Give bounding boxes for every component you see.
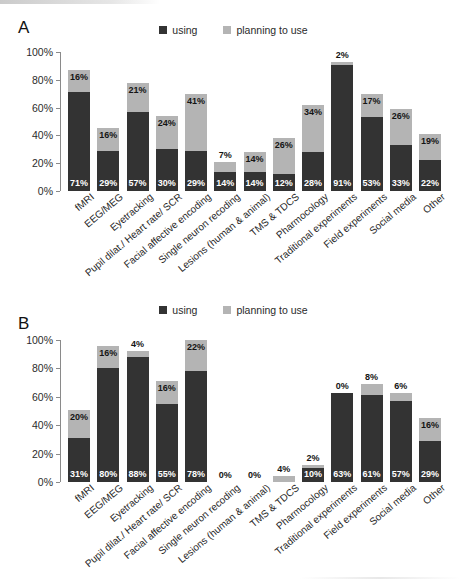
legend-label-planning: planning to use [236,304,307,316]
bar-segment-planning: 17% [361,94,383,118]
bar-stack[interactable]: 16%29% [97,52,119,191]
bar-value-label: 55% [158,470,176,479]
bar-value-label: 26% [275,141,293,150]
bar-value-label: 91% [333,179,351,188]
y-axis-tick: 40% [32,129,60,141]
bar-segment-planning: 20% [68,410,90,438]
bar-stack[interactable]: 17%53% [361,52,383,191]
bar-stack[interactable]: 22%78% [185,340,207,482]
panel-letter-b: B [18,314,30,334]
bar-segment-planning: 16% [68,70,90,92]
legend-item-planning: planning to use [223,24,307,36]
bar-segment-using: 55% [156,404,178,482]
bar-stack[interactable]: 26%12% [273,52,295,191]
bar-value-label: 17% [362,97,380,106]
plot-area-a: 100%80%60%40%20%0% 16%71%16%29%21%57%24%… [60,52,445,191]
bar-stack[interactable]: 34%28% [302,52,324,191]
bar-stack[interactable]: 4% [273,340,295,482]
bar-segment-planning: 7% [214,162,236,172]
bar-segment-using: 63% [331,393,353,482]
bar-segment-using: 33% [390,145,412,191]
bar-segment-planning: 16% [419,418,441,441]
bar-segment-planning: 26% [273,138,295,174]
y-axis-tick: 80% [32,362,60,374]
y-axis-line [60,340,61,482]
bar-value-label: 0% [336,382,349,391]
bar-stack[interactable]: 41%29% [185,52,207,191]
bar-value-label: 57% [128,179,146,188]
bar-value-label: 16% [421,421,439,430]
bar-stack[interactable]: 0% [214,340,236,482]
bar-stack[interactable]: 16%29% [419,340,441,482]
x-axis-label: fMRI [73,482,96,504]
bar-stack[interactable]: 21%57% [127,52,149,191]
bar-stack[interactable]: 7%14% [214,52,236,191]
legend-swatch-using-icon [159,26,167,34]
bar-value-label: 2% [336,51,349,60]
bar-stack[interactable]: 0% [244,340,266,482]
bar-stack[interactable]: 16%55% [156,340,178,482]
bar-segment-using: 31% [68,438,90,482]
bar-stack[interactable]: 16%71% [68,52,90,191]
bar-value-label: 22% [187,343,205,352]
x-axis-label: fMRI [73,191,96,213]
bar-segment-using: 57% [127,112,149,191]
bar-stack[interactable]: 6%57% [390,340,412,482]
bar-value-label: 33% [392,179,410,188]
bar-value-label: 10% [304,470,322,479]
y-axis-tick: 100% [26,46,60,58]
x-axis-labels-b: fMRIEEG/MEGEyetrackingPupil dilat./ Hear… [60,482,445,578]
x-axis-label: Other [421,191,447,216]
bar-segment-using: 28% [302,152,324,191]
bar-value-label: 14% [216,179,234,188]
bar-segment-planning: 24% [156,116,178,149]
bar-stack[interactable]: 14%14% [244,52,266,191]
bar-value-label: 31% [70,470,88,479]
bar-value-label: 71% [70,179,88,188]
plot-area-b: 100%80%60%40%20%0% 20%31%16%80%4%88%16%5… [60,340,445,482]
bar-stack[interactable]: 24%30% [156,52,178,191]
bar-value-label: 19% [421,137,439,146]
bar-stack[interactable]: 20%31% [68,340,90,482]
bar-value-label: 7% [219,151,232,160]
bar-segment-planning: 21% [127,83,149,112]
bar-stack[interactable]: 0%63% [331,340,353,482]
bar-segment-using: 30% [156,149,178,191]
bar-segment-using: 22% [419,160,441,191]
bar-value-label: 26% [392,112,410,121]
bar-segment-using: 29% [97,151,119,191]
bar-value-label: 20% [70,413,88,422]
bar-segment-planning: 6% [390,393,412,402]
y-axis-tick: 60% [32,391,60,403]
bar-stack[interactable]: 26%33% [390,52,412,191]
bar-segment-using: 29% [185,151,207,191]
bar-stack[interactable]: 16%80% [97,340,119,482]
legend-item-using: using [159,304,197,316]
bar-value-label: 6% [394,382,407,391]
bar-value-label: 30% [158,179,176,188]
bar-value-label: 4% [131,340,144,349]
bar-value-label: 16% [70,73,88,82]
bar-value-label: 29% [421,470,439,479]
bar-stack[interactable]: 8%61% [361,340,383,482]
legend-panel-b: using planning to use [0,304,467,316]
bar-value-label: 88% [128,470,146,479]
bar-segment-planning: 19% [419,134,441,160]
bar-stack[interactable]: 2%10% [302,340,324,482]
bar-value-label: 24% [158,119,176,128]
bar-value-label: 28% [304,179,322,188]
bar-value-label: 61% [362,470,380,479]
legend-label-planning: planning to use [236,24,307,36]
bar-value-label: 4% [277,465,290,474]
bar-stack[interactable]: 2%91% [331,52,353,191]
legend-swatch-planning-icon [223,26,231,34]
bar-value-label: 2% [306,454,319,463]
bar-stack[interactable]: 4%88% [127,340,149,482]
bar-value-label: 63% [333,470,351,479]
bar-segment-using: 53% [361,117,383,191]
bar-stack[interactable]: 19%22% [419,52,441,191]
bar-value-label: 14% [245,179,263,188]
legend-item-planning: planning to use [223,304,307,316]
bar-value-label: 29% [99,179,117,188]
legend-panel-a: using planning to use [0,24,467,36]
